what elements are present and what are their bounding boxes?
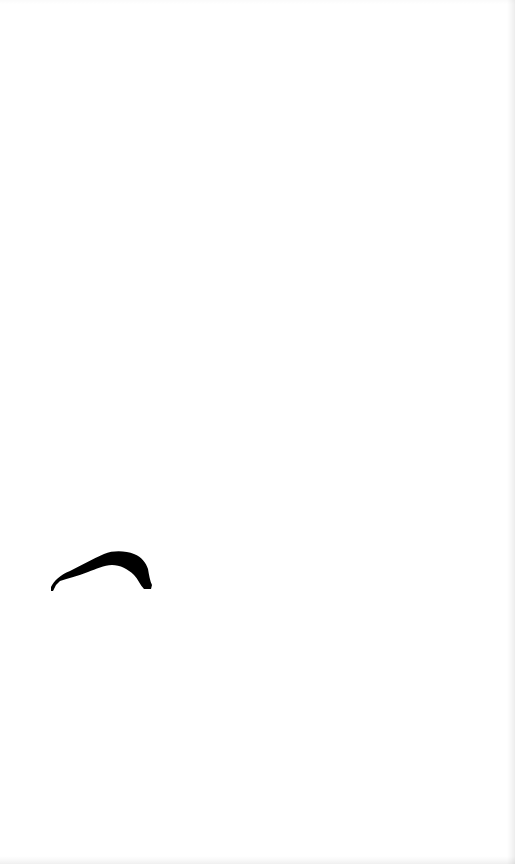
top-edge-shade (0, 0, 515, 4)
right-edge-shade (507, 0, 515, 864)
drawing-canvas[interactable] (0, 0, 515, 864)
brush-stroke-arc (48, 545, 158, 595)
brush-stroke-path (51, 551, 152, 591)
bottom-edge-shade (0, 856, 515, 864)
